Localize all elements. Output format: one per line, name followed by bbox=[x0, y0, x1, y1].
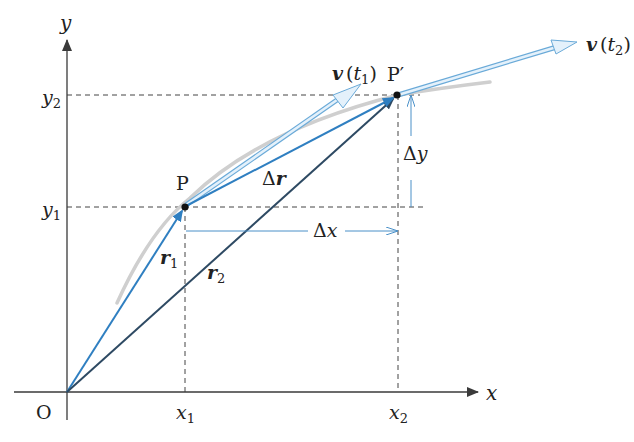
x2-tick-label: x2 bbox=[389, 401, 408, 426]
y2-tick-label: y2 bbox=[41, 86, 61, 111]
point-p-prime-label: P′ bbox=[387, 63, 404, 85]
r1-vector bbox=[67, 211, 182, 392]
guide-lines bbox=[67, 95, 425, 392]
delta-y-label: Δy bbox=[403, 142, 428, 164]
r2-vector bbox=[67, 99, 393, 392]
y-axis-label: y bbox=[59, 11, 72, 35]
velocity-t2-arrow bbox=[398, 40, 577, 95]
origin-label: O bbox=[36, 401, 52, 423]
x1-tick-label: x1 bbox=[176, 401, 195, 426]
y1-tick-label: y1 bbox=[41, 198, 61, 223]
diagram-canvas: y x O y2 y1 x1 x2 P P′ r1 r2 Δr Δx Δy v(… bbox=[0, 0, 634, 442]
r2-label: r2 bbox=[207, 261, 225, 286]
delta-x-label: Δx bbox=[313, 219, 338, 241]
delta-r-label: Δr bbox=[262, 167, 288, 189]
delta-r-vector bbox=[186, 98, 393, 206]
v-t1-label: v(t1) bbox=[332, 62, 377, 87]
point-p-prime bbox=[393, 91, 400, 98]
point-p-label: P bbox=[176, 172, 189, 194]
point-p bbox=[181, 203, 188, 210]
r1-label: r1 bbox=[160, 246, 178, 271]
x-axis-label: x bbox=[486, 381, 497, 405]
v-t2-label: v(t2) bbox=[586, 33, 631, 58]
